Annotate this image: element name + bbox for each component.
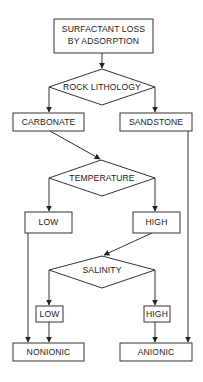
node-salinity-low: LOW: [36, 306, 63, 322]
node-anionic-label: ANIONIC: [138, 347, 175, 357]
node-carbonate: CARBONATE: [13, 113, 84, 131]
edge-temphigh-to-salinity: [104, 233, 152, 255]
decision-salinity: SALINITY: [49, 256, 155, 288]
node-salinity-high: HIGH: [144, 306, 170, 322]
node-temperature-high: HIGH: [133, 212, 180, 233]
node-sandstone-label: SANDSTONE: [129, 117, 183, 127]
node-anionic: ANIONIC: [120, 343, 192, 361]
node-surfactant-loss-line1: SURFACTANT LOSS: [62, 24, 145, 34]
decision-temperature: TEMPERATURE: [49, 160, 155, 196]
node-salinity-low-label: LOW: [40, 309, 61, 319]
node-carbonate-label: CARBONATE: [22, 117, 76, 127]
decision-rock-lithology-label: ROCK LITHOLOGY: [63, 82, 141, 92]
node-nonionic-label: NONIONIC: [27, 347, 71, 357]
decision-temperature-label: TEMPERATURE: [69, 173, 135, 183]
node-nonionic: NONIONIC: [13, 343, 84, 361]
node-sandstone: SANDSTONE: [120, 113, 192, 131]
edge-carbonate-to-temperature: [50, 131, 100, 159]
node-surfactant-loss-line2: BY ADSORPTION: [68, 36, 139, 46]
node-temperature-low: LOW: [25, 212, 72, 233]
node-salinity-high-label: HIGH: [146, 309, 168, 319]
node-surfactant-loss: SURFACTANT LOSS BY ADSORPTION: [54, 19, 153, 53]
decision-salinity-label: SALINITY: [82, 265, 121, 275]
node-temperature-high-label: HIGH: [146, 217, 168, 227]
decision-rock-lithology: ROCK LITHOLOGY: [49, 69, 155, 105]
flowchart: SURFACTANT LOSS BY ADSORPTION ROCK LITHO…: [0, 0, 203, 382]
node-temperature-low-label: LOW: [39, 217, 60, 227]
